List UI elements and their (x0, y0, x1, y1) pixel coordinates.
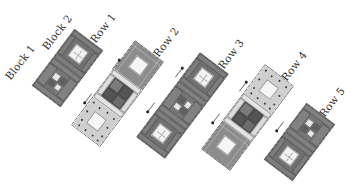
pressing-arrow-down-icon (147, 102, 155, 112)
label-row-2: Row 2 (151, 25, 182, 59)
pressing-arrow-down-icon (212, 113, 220, 123)
pressing-arrow-down-icon (276, 121, 284, 131)
label-row-1: Row 1 (88, 11, 119, 45)
label-row-3: Row 3 (216, 37, 247, 71)
label-block-1: Block 1 (3, 42, 38, 82)
